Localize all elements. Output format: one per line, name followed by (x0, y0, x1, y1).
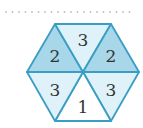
label-top-left: 2 (50, 46, 61, 66)
dotted-line (5, 11, 130, 13)
label-top-right: 2 (106, 46, 117, 66)
label-bottom-right: 3 (106, 80, 117, 100)
label-bottom-left: 3 (50, 80, 61, 100)
hexagon-diagram: 2 3 2 3 1 3 (0, 0, 143, 128)
label-top: 3 (78, 30, 89, 50)
label-bottom: 1 (78, 97, 89, 117)
